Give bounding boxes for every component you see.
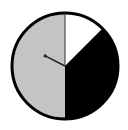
pie-chart xyxy=(0,0,128,130)
needle-tip-dot xyxy=(44,54,47,57)
pie-slice-gray xyxy=(12,13,65,119)
